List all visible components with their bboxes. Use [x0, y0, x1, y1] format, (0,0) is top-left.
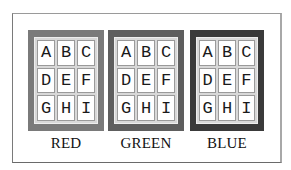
cell-i: I — [238, 95, 255, 121]
cell-b: B — [137, 40, 155, 66]
letter-grid-green: A B C D E F G H I — [114, 37, 178, 124]
cell-h: H — [137, 95, 155, 121]
cell-i: I — [77, 95, 95, 121]
cell-f: F — [238, 68, 255, 94]
cell-b: B — [57, 40, 75, 66]
label-red: RED — [28, 135, 104, 152]
cell-g: G — [117, 95, 135, 121]
panel-red: A B C D E F G H I — [28, 30, 104, 131]
cell-d: D — [37, 68, 55, 94]
letter-grid-red: A B C D E F G H I — [34, 37, 98, 124]
letter-grid-blue: A B C D E F G H I — [196, 37, 258, 124]
cell-c: C — [157, 40, 175, 66]
cell-a: A — [199, 40, 216, 66]
cell-g: G — [37, 95, 55, 121]
cell-g: G — [199, 95, 216, 121]
label-green: GREEN — [108, 135, 184, 152]
cell-h: H — [218, 95, 235, 121]
cell-a: A — [117, 40, 135, 66]
cell-e: E — [57, 68, 75, 94]
panel-blue: A B C D E F G H I — [190, 30, 264, 131]
panel-green: A B C D E F G H I — [108, 30, 184, 131]
cell-f: F — [157, 68, 175, 94]
cell-d: D — [117, 68, 135, 94]
cell-h: H — [57, 95, 75, 121]
cell-f: F — [77, 68, 95, 94]
label-blue: BLUE — [190, 135, 264, 152]
cell-e: E — [218, 68, 235, 94]
cell-a: A — [37, 40, 55, 66]
cell-d: D — [199, 68, 216, 94]
cell-e: E — [137, 68, 155, 94]
cell-b: B — [218, 40, 235, 66]
cell-i: I — [157, 95, 175, 121]
cell-c: C — [238, 40, 255, 66]
cell-c: C — [77, 40, 95, 66]
